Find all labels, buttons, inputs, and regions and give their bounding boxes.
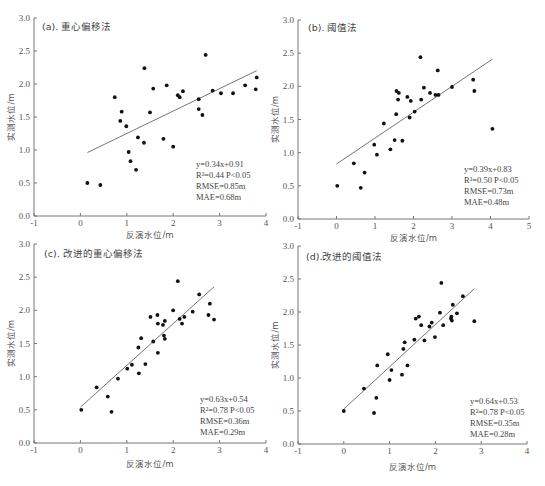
y-tick-label: 0.5 xyxy=(19,178,31,188)
y-tick-label: 2.5 xyxy=(19,46,31,56)
data-point xyxy=(372,143,376,147)
x-tick-label: -1 xyxy=(30,218,38,228)
x-tick-label: -1 xyxy=(294,221,302,231)
data-point xyxy=(433,335,437,339)
data-point xyxy=(388,378,392,382)
y-tick-label: 1.5 xyxy=(283,115,295,125)
x-axis-label: 反演水位/m xyxy=(389,462,436,472)
data-point xyxy=(163,319,167,323)
data-point xyxy=(408,116,412,120)
panel-title: (b). 阈值法 xyxy=(308,22,357,33)
y-tick-label: 0.5 xyxy=(283,406,295,416)
data-point xyxy=(142,141,146,145)
data-point xyxy=(178,95,182,99)
x-tick-label: 1 xyxy=(373,221,378,231)
data-point xyxy=(165,83,169,87)
data-point xyxy=(162,137,166,141)
data-point xyxy=(211,89,215,93)
data-point xyxy=(342,409,346,413)
x-tick-label: 2 xyxy=(171,218,176,228)
y-tick-label: 0.5 xyxy=(283,181,295,191)
data-point xyxy=(106,395,110,399)
data-point xyxy=(400,373,404,377)
data-point xyxy=(191,310,195,314)
data-point xyxy=(116,377,120,381)
data-point xyxy=(161,323,165,327)
data-point xyxy=(204,53,208,57)
data-point xyxy=(243,83,247,87)
data-point xyxy=(412,338,416,342)
data-point xyxy=(441,323,445,327)
data-point xyxy=(181,89,185,93)
regression-line xyxy=(80,287,214,407)
data-point xyxy=(428,325,432,329)
x-tick-label: 3 xyxy=(450,221,455,231)
stat-line: R²=0.44 P<0.05 xyxy=(196,170,250,180)
x-tick-label: 0 xyxy=(78,445,83,455)
y-tick-label: 2.5 xyxy=(283,48,295,58)
stat-line: y=0.34x+0.91 xyxy=(196,159,244,169)
data-point xyxy=(419,55,423,59)
x-tick-label: 2 xyxy=(411,221,416,231)
data-point xyxy=(130,363,134,367)
data-point xyxy=(180,322,184,326)
y-axis-label: 实测水位/m xyxy=(6,320,16,367)
figure-canvas: -1012340.00.51.01.52.02.53.0(a). 重心偏移法反演… xyxy=(0,0,545,486)
x-tick-label: -1 xyxy=(294,446,302,456)
data-point xyxy=(151,340,155,344)
data-point xyxy=(139,336,143,340)
data-point xyxy=(148,110,152,114)
data-point xyxy=(231,91,235,95)
data-point xyxy=(390,368,394,372)
stat-line: y=0.39x+0.83 xyxy=(464,164,512,174)
stat-line: RMSE=0.73m xyxy=(464,186,514,196)
panel-title: (d).改进的阈值法 xyxy=(306,251,382,262)
data-point xyxy=(372,411,376,415)
data-point xyxy=(352,161,356,165)
data-point xyxy=(393,138,397,142)
data-point xyxy=(397,91,401,95)
x-tick-label: 0 xyxy=(342,446,347,456)
data-point xyxy=(178,317,182,321)
data-point xyxy=(375,153,379,157)
data-point xyxy=(389,147,393,151)
data-point xyxy=(386,352,390,356)
x-tick-label: 4 xyxy=(525,446,530,456)
stat-line: R²=0.78 P<0.05 xyxy=(470,407,524,417)
data-point xyxy=(156,351,160,355)
stat-line: y=0.64x+0.53 xyxy=(470,396,518,406)
data-point xyxy=(382,122,386,126)
data-point xyxy=(472,319,476,323)
data-point xyxy=(451,303,455,307)
data-point xyxy=(129,159,133,163)
data-point xyxy=(118,119,122,123)
y-tick-label: 2.0 xyxy=(283,81,295,91)
y-tick-label: 0.0 xyxy=(19,211,31,221)
y-axis-label: 实测水位/m xyxy=(6,93,16,140)
data-point xyxy=(422,86,426,90)
data-point xyxy=(156,322,160,326)
data-point xyxy=(394,112,398,116)
data-point xyxy=(413,110,417,114)
data-point xyxy=(450,319,454,323)
y-tick-label: 0.5 xyxy=(19,405,31,415)
data-point xyxy=(143,362,147,366)
y-tick-label: 1.0 xyxy=(283,373,295,383)
data-point xyxy=(171,145,175,149)
data-point xyxy=(151,87,155,91)
data-point xyxy=(472,89,476,93)
data-point xyxy=(137,346,141,350)
x-axis-label: 反演水位/m xyxy=(126,230,173,240)
data-point xyxy=(374,396,378,400)
data-point xyxy=(419,98,423,102)
data-point xyxy=(414,317,418,321)
y-tick-label: 2.5 xyxy=(19,272,31,282)
data-point xyxy=(471,78,475,82)
data-point xyxy=(85,181,89,185)
y-tick-label: 2.0 xyxy=(19,305,31,315)
data-point xyxy=(363,171,367,175)
data-point xyxy=(110,410,114,414)
data-point xyxy=(401,347,405,351)
data-point xyxy=(208,302,212,306)
data-point xyxy=(143,66,147,70)
